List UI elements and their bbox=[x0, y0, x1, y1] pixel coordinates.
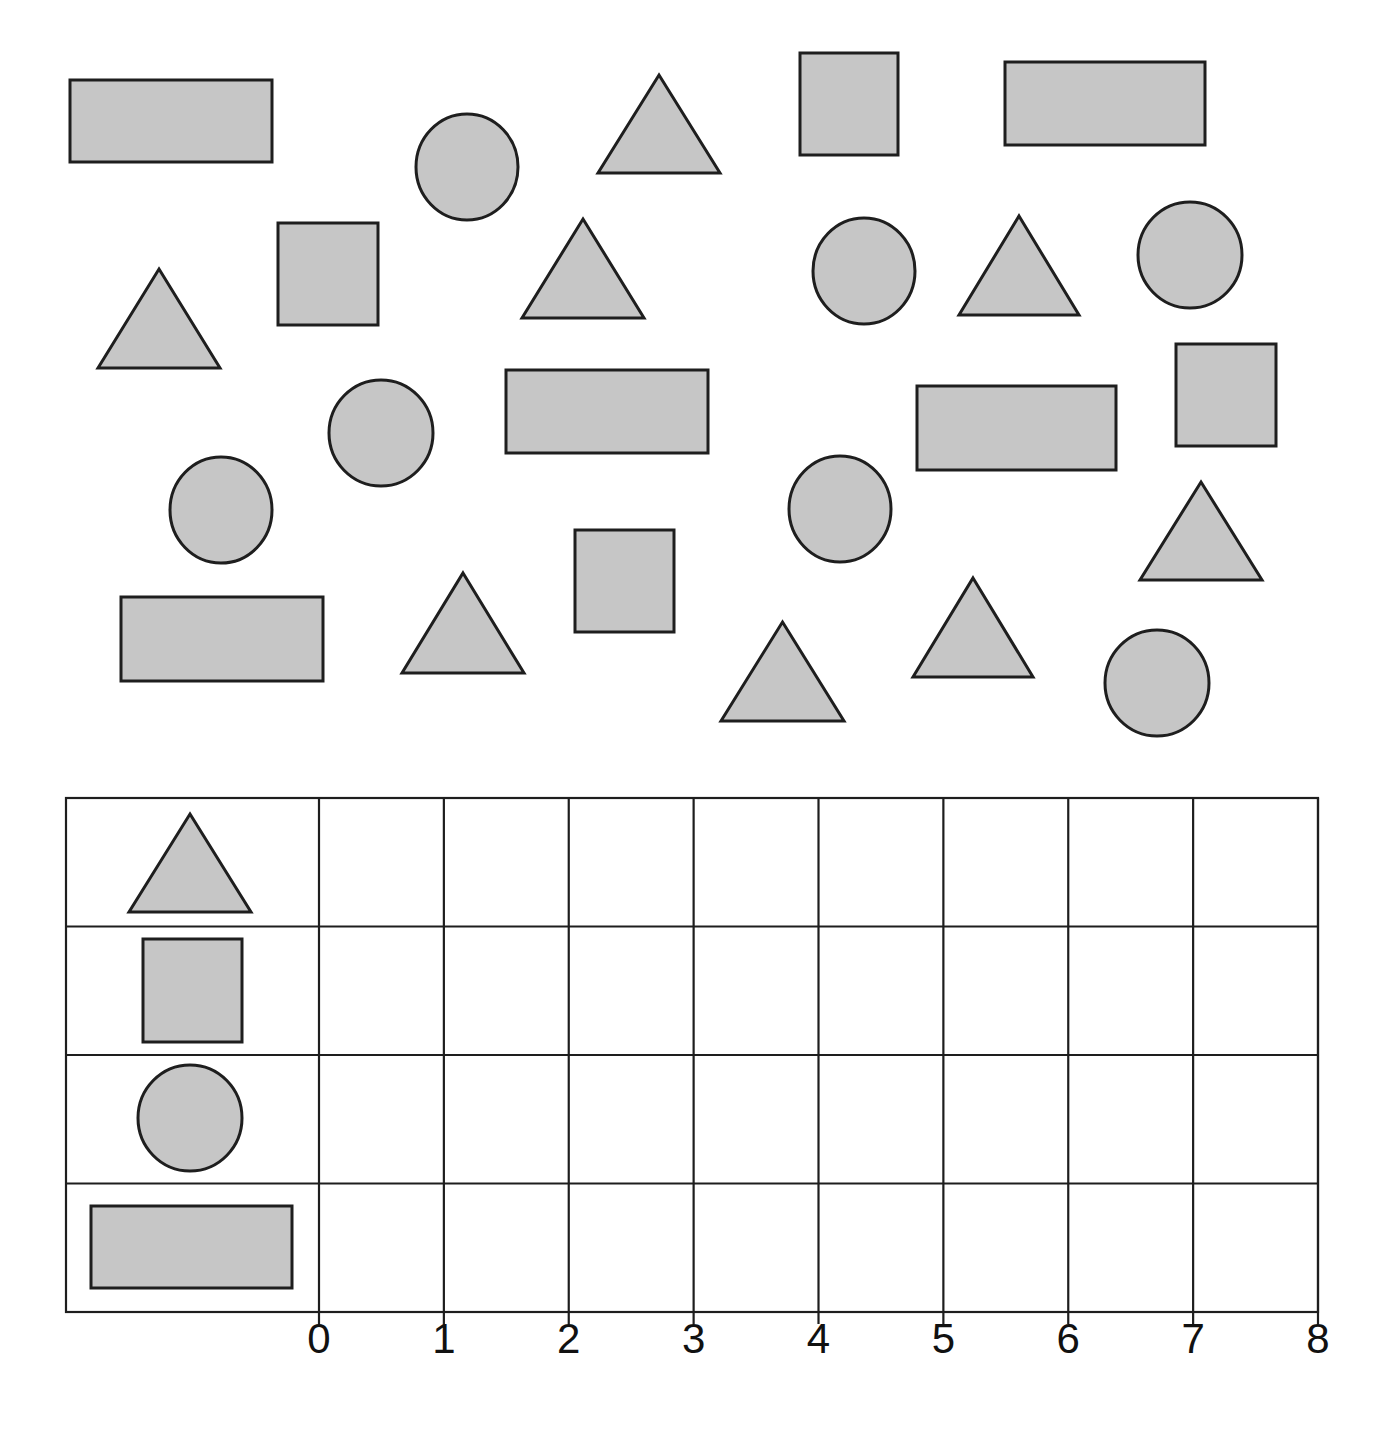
grid-cell-square-3[interactable] bbox=[571, 929, 692, 1054]
circle-icon bbox=[329, 380, 433, 486]
grid-cell-square-1[interactable] bbox=[321, 929, 442, 1054]
grid-cell-triangle-6[interactable] bbox=[945, 800, 1066, 925]
grid-cell-circle-6[interactable] bbox=[945, 1057, 1066, 1182]
triangle-icon bbox=[402, 573, 524, 673]
rectangle-icon bbox=[1005, 62, 1205, 145]
grid-cell-rectangle-8[interactable] bbox=[1195, 1186, 1316, 1311]
grid-cell-circle-8[interactable] bbox=[1195, 1057, 1316, 1182]
axis-tick-label: 7 bbox=[1181, 1315, 1204, 1362]
circle-icon bbox=[416, 114, 518, 220]
square-icon bbox=[800, 53, 898, 155]
grid-cell-circle-2[interactable] bbox=[446, 1057, 567, 1182]
grid-cell-triangle-8[interactable] bbox=[1195, 800, 1316, 925]
grid-cell-rectangle-6[interactable] bbox=[945, 1186, 1066, 1311]
circle-icon bbox=[1138, 202, 1242, 308]
triangle-icon bbox=[721, 622, 844, 721]
axis-tick-label: 4 bbox=[807, 1315, 830, 1362]
grid-cell-square-4[interactable] bbox=[696, 929, 817, 1054]
scattered-shapes-area bbox=[70, 53, 1276, 736]
triangle-icon bbox=[913, 578, 1033, 677]
axis-tick-label: 3 bbox=[682, 1315, 705, 1362]
grid-cell-rectangle-7[interactable] bbox=[1070, 1186, 1191, 1311]
grid-cell-rectangle-2[interactable] bbox=[446, 1186, 567, 1311]
grid-cell-circle-7[interactable] bbox=[1070, 1057, 1191, 1182]
grid-cell-triangle-5[interactable] bbox=[821, 800, 942, 925]
row-label-circle-icon bbox=[138, 1065, 242, 1171]
axis-tick-label: 8 bbox=[1306, 1315, 1329, 1362]
row-label-square-icon bbox=[143, 939, 242, 1042]
grid-row-icons bbox=[91, 814, 292, 1288]
circle-icon bbox=[170, 457, 272, 563]
triangle-icon bbox=[522, 219, 644, 318]
square-icon bbox=[278, 223, 378, 325]
grid-cell-triangle-2[interactable] bbox=[446, 800, 567, 925]
row-label-triangle-icon bbox=[129, 814, 251, 912]
worksheet-canvas: 012345678 bbox=[0, 0, 1396, 1449]
axis-tick-label: 2 bbox=[557, 1315, 580, 1362]
circle-icon bbox=[789, 456, 891, 562]
grid-cell-circle-3[interactable] bbox=[571, 1057, 692, 1182]
grid-cell-triangle-3[interactable] bbox=[571, 800, 692, 925]
grid-cell-rectangle-5[interactable] bbox=[821, 1186, 942, 1311]
x-axis: 012345678 bbox=[307, 1315, 1329, 1362]
square-icon bbox=[1176, 344, 1276, 446]
rectangle-icon bbox=[70, 80, 272, 162]
row-label-rectangle-icon bbox=[91, 1206, 292, 1288]
axis-tick-label: 6 bbox=[1057, 1315, 1080, 1362]
triangle-icon bbox=[1140, 482, 1262, 580]
grid-cell-square-5[interactable] bbox=[821, 929, 942, 1054]
grid-cell-triangle-4[interactable] bbox=[696, 800, 817, 925]
grid-cell-circle-4[interactable] bbox=[696, 1057, 817, 1182]
triangle-icon bbox=[98, 269, 220, 368]
grid-cell-square-2[interactable] bbox=[446, 929, 567, 1054]
grid-cell-square-6[interactable] bbox=[945, 929, 1066, 1054]
grid-cell-triangle-7[interactable] bbox=[1070, 800, 1191, 925]
circle-icon bbox=[1105, 630, 1209, 736]
triangle-icon bbox=[959, 216, 1079, 315]
grid-cell-rectangle-4[interactable] bbox=[696, 1186, 817, 1311]
triangle-icon bbox=[598, 75, 720, 173]
axis-tick-label: 1 bbox=[432, 1315, 455, 1362]
grid-cell-triangle-1[interactable] bbox=[321, 800, 442, 925]
square-icon bbox=[575, 530, 674, 632]
axis-tick-label: 0 bbox=[307, 1315, 330, 1362]
rectangle-icon bbox=[121, 597, 323, 681]
grid-cell-square-8[interactable] bbox=[1195, 929, 1316, 1054]
rectangle-icon bbox=[506, 370, 708, 453]
axis-tick-label: 5 bbox=[932, 1315, 955, 1362]
rectangle-icon bbox=[917, 386, 1116, 470]
circle-icon bbox=[813, 218, 915, 324]
grid-cell-rectangle-1[interactable] bbox=[321, 1186, 442, 1311]
grid-cell-circle-1[interactable] bbox=[321, 1057, 442, 1182]
grid-cell-rectangle-3[interactable] bbox=[571, 1186, 692, 1311]
grid-cell-square-7[interactable] bbox=[1070, 929, 1191, 1054]
grid-cell-circle-5[interactable] bbox=[821, 1057, 942, 1182]
